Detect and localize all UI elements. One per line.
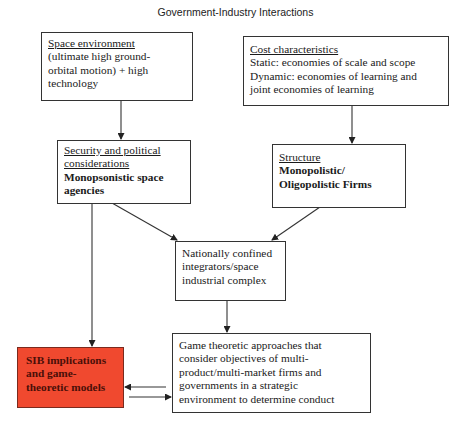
- structure-heading: Structure: [279, 151, 399, 164]
- game-theoretic-line: Game theoretic approaches that: [179, 339, 364, 352]
- security-box: Security and political considerations Mo…: [57, 140, 191, 204]
- game-theoretic-line: environment to determine conduct: [179, 393, 364, 406]
- game-theoretic-line: consider objectives of multi-: [179, 352, 364, 365]
- integrators-line: industrial complex: [182, 274, 279, 287]
- space-environment-heading: Space environment: [48, 37, 186, 50]
- cost-characteristics-box: Cost characteristics Static: economies o…: [243, 36, 449, 106]
- structure-bold-line: Monopolistic/: [279, 164, 399, 177]
- security-heading: considerations: [64, 157, 184, 170]
- game-theoretic-box: Game theoretic approaches that consider …: [172, 333, 371, 413]
- structure-bold-line: Oligopolistic Firms: [279, 178, 399, 191]
- sib-line: theoretic models: [26, 381, 115, 394]
- cost-characteristics-line: Static: economies of scale and scope: [250, 56, 442, 69]
- arrow-security-to-integrators: [112, 203, 177, 240]
- security-bold-line: agencies: [64, 184, 184, 197]
- security-bold-line: Monopsonistic space: [64, 171, 184, 184]
- sib-line: SIB implications: [26, 354, 115, 367]
- integrators-box: Nationally confined integrators/space in…: [175, 241, 286, 301]
- arrow-structure-to-integrators: [272, 207, 320, 240]
- structure-box: Structure Monopolistic/ Oligopolistic Fi…: [272, 144, 406, 208]
- space-environment-box: Space environment (ultimate high ground-…: [41, 32, 193, 101]
- space-environment-line: technology: [48, 77, 186, 90]
- integrators-line: integrators/space: [182, 260, 279, 273]
- sib-implications-box: SIB implications and game- theoretic mod…: [17, 347, 124, 408]
- security-heading: Security and political: [64, 144, 184, 157]
- space-environment-line: orbital motion) + high: [48, 64, 186, 77]
- cost-characteristics-heading: Cost characteristics: [250, 43, 442, 56]
- integrators-line: Nationally confined: [182, 247, 279, 260]
- space-environment-line: (ultimate high ground-: [48, 50, 186, 63]
- sib-line: and game-: [26, 367, 115, 380]
- diagram-title: Government-Industry Interactions: [0, 6, 471, 18]
- cost-characteristics-line: Dynamic: economies of learning and: [250, 70, 442, 83]
- cost-characteristics-line: joint economies of learning: [250, 83, 442, 96]
- game-theoretic-line: governments in a strategic: [179, 379, 364, 392]
- game-theoretic-line: product/multi-market firms and: [179, 366, 364, 379]
